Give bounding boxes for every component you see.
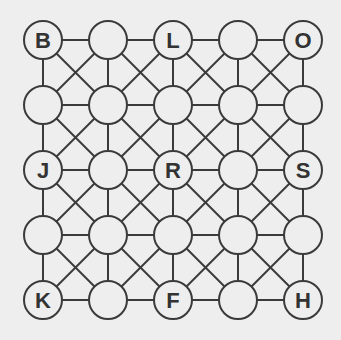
- grid-node: K: [24, 281, 62, 319]
- node-circle: [219, 86, 257, 124]
- grid-node: [154, 86, 192, 124]
- grid-node: [284, 86, 322, 124]
- grid-node: [89, 151, 127, 189]
- grid-node: H: [284, 281, 322, 319]
- grid-node: R: [154, 151, 192, 189]
- node-circle: [24, 86, 62, 124]
- node-circle: [154, 216, 192, 254]
- node-circle: [89, 216, 127, 254]
- node-label: L: [166, 28, 179, 53]
- grid-node: [89, 216, 127, 254]
- node-circle: [219, 151, 257, 189]
- node-circle: [154, 86, 192, 124]
- grid-node: [219, 21, 257, 59]
- node-circle: [89, 281, 127, 319]
- node-circle: [89, 21, 127, 59]
- grid-node: L: [154, 21, 192, 59]
- node-circle: [89, 86, 127, 124]
- grid-node: [154, 216, 192, 254]
- node-label: J: [37, 158, 49, 183]
- grid-node: [219, 151, 257, 189]
- grid-node: [284, 216, 322, 254]
- grid-node: B: [24, 21, 62, 59]
- grid-node: S: [284, 151, 322, 189]
- node-label: R: [165, 158, 181, 183]
- grid-node: F: [154, 281, 192, 319]
- node-circle: [284, 86, 322, 124]
- node-label: F: [166, 288, 179, 313]
- node-label: O: [294, 28, 311, 53]
- grid-node: [219, 216, 257, 254]
- grid-node: [89, 86, 127, 124]
- node-circle: [89, 151, 127, 189]
- grid-node: O: [284, 21, 322, 59]
- grid-node: [219, 86, 257, 124]
- grid-node: [89, 21, 127, 59]
- node-label: H: [295, 288, 311, 313]
- node-circle: [219, 216, 257, 254]
- grid-node: J: [24, 151, 62, 189]
- node-circle: [24, 216, 62, 254]
- grid-node: [89, 281, 127, 319]
- letter-grid-diagram: BLOJRSKFH: [0, 0, 341, 340]
- node-circle: [219, 281, 257, 319]
- grid-node: [24, 86, 62, 124]
- node-label: S: [296, 158, 311, 183]
- grid-node: [219, 281, 257, 319]
- node-circle: [219, 21, 257, 59]
- grid-node: [24, 216, 62, 254]
- node-circle: [284, 216, 322, 254]
- node-label: B: [35, 28, 51, 53]
- node-label: K: [35, 288, 51, 313]
